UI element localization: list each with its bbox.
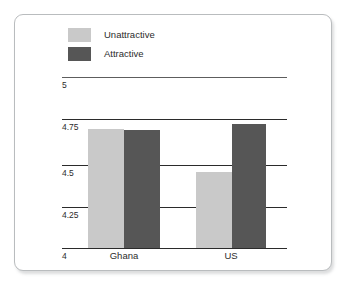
ytick-label-4: 4 <box>62 251 67 261</box>
bar-us-attractive[interactable] <box>232 124 266 248</box>
ytick-label-4-75: 4.75 <box>62 122 79 132</box>
gridline-5 <box>62 77 287 78</box>
ytick-label-4-5: 4.5 <box>62 168 74 178</box>
legend-label-unattractive: Unattractive <box>104 27 155 43</box>
legend-swatch-unattractive-icon <box>68 28 91 42</box>
bar-ghana-attractive[interactable] <box>124 130 160 248</box>
xtick-label-ghana: Ghana <box>94 250 154 262</box>
ytick-label-4-25: 4.25 <box>62 210 79 220</box>
bar-us-unattractive[interactable] <box>196 172 232 248</box>
gridline-4-75 <box>62 119 287 120</box>
axis-baseline <box>62 248 287 249</box>
xtick-label-us: US <box>201 250 261 262</box>
legend-swatch-attractive-icon <box>68 47 91 61</box>
legend-label-attractive: Attractive <box>104 46 144 62</box>
plot-area: Unattractive Attractive 5 4.75 4.5 4.25 … <box>0 0 345 284</box>
bar-ghana-unattractive[interactable] <box>88 129 124 248</box>
ytick-label-5: 5 <box>62 80 67 90</box>
chart-figure: Unattractive Attractive 5 4.75 4.5 4.25 … <box>0 0 345 284</box>
